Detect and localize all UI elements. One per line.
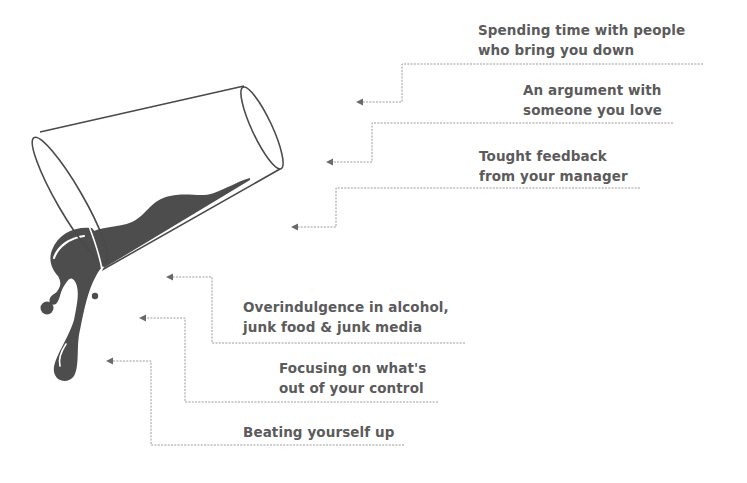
glass-base (234, 83, 290, 173)
liquid-drop-small (92, 293, 98, 299)
label-line: Tought feedback (479, 146, 628, 166)
arrow-left-icon (326, 159, 333, 166)
label-line: Beating yourself up (243, 422, 395, 442)
label-line: junk food & junk media (243, 317, 449, 337)
label-line: from your manager (479, 166, 628, 186)
liquid-in-glass (88, 178, 250, 268)
connector-3 (291, 188, 640, 231)
label-line: An argument with (523, 80, 662, 100)
arrow-left-icon (139, 315, 146, 322)
arrow-left-icon (166, 274, 173, 281)
diagram-canvas (0, 0, 747, 483)
label-line: someone you love (523, 100, 662, 120)
label-beating-yourself: Beating yourself up (243, 422, 395, 442)
label-overindulgence: Overindulgence in alcohol, junk food & j… (243, 297, 449, 337)
label-line: who bring you down (478, 40, 685, 60)
label-line: out of your control (279, 378, 426, 398)
liquid-drop-large (41, 302, 54, 315)
label-argument: An argument with someone you love (523, 80, 662, 120)
arrow-left-icon (291, 224, 298, 231)
label-line: Spending time with people (478, 20, 685, 40)
arrow-left-icon (356, 99, 363, 106)
label-line: Focusing on what's (279, 358, 426, 378)
label-feedback: Tought feedback from your manager (479, 146, 628, 186)
label-people-bring-down: Spending time with people who bring you … (478, 20, 685, 60)
label-control: Focusing on what's out of your control (279, 358, 426, 398)
label-line: Overindulgence in alcohol, (243, 297, 449, 317)
arrow-left-icon (106, 358, 113, 365)
